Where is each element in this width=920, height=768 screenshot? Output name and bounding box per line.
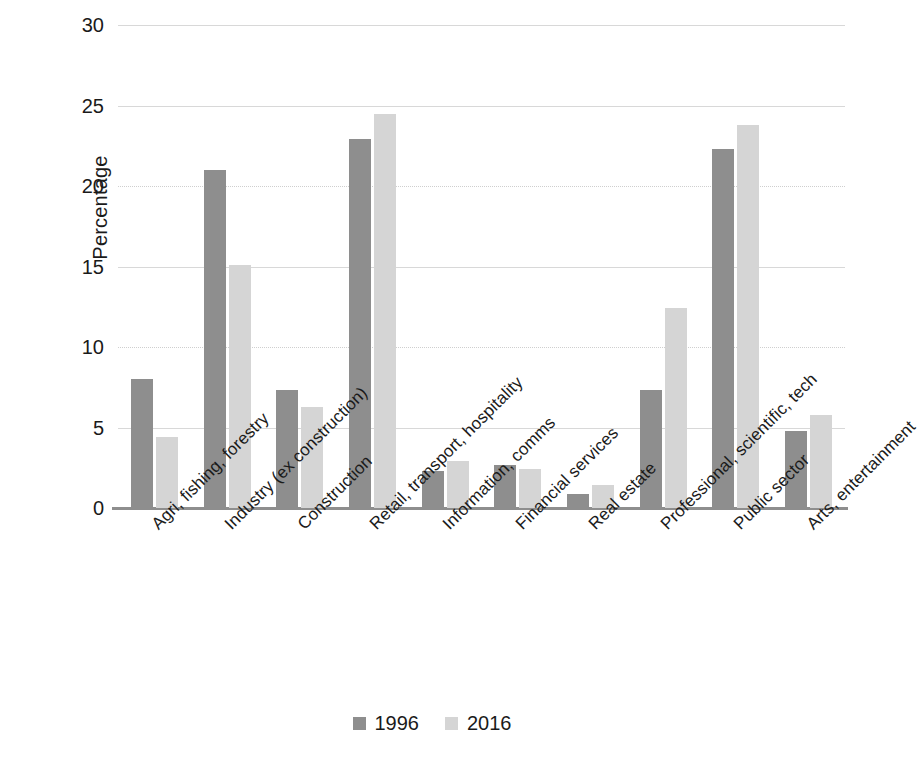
y-axis-tick-label: 30: [60, 14, 104, 37]
bar-2016[interactable]: [229, 265, 251, 508]
bar-1996[interactable]: [131, 379, 153, 508]
bar-group: [336, 25, 409, 508]
bar-2016[interactable]: [374, 114, 396, 508]
legend-swatch-2016-icon: [445, 717, 458, 730]
y-axis-tick-label: 20: [60, 175, 104, 198]
legend-item-2016[interactable]: 2016: [445, 712, 512, 735]
y-axis-tick-label: 15: [60, 255, 104, 278]
y-axis-tick-label: 0: [60, 497, 104, 520]
legend-label-2016: 2016: [467, 712, 512, 735]
bar-1996[interactable]: [640, 390, 662, 508]
bar-group: [627, 25, 700, 508]
bar-1996[interactable]: [567, 494, 589, 508]
bar-group: [772, 25, 845, 508]
plot-area: [118, 25, 845, 508]
bar-group: [118, 25, 191, 508]
bar-2016[interactable]: [665, 308, 687, 508]
y-axis-tick-label: 5: [60, 416, 104, 439]
legend-swatch-1996-icon: [353, 717, 366, 730]
chart-legend: 1996 2016: [0, 712, 864, 735]
y-axis-tick-label: 10: [60, 336, 104, 359]
legend-label-1996: 1996: [375, 712, 420, 735]
y-axis-tick-label: 25: [60, 94, 104, 117]
legend-item-1996[interactable]: 1996: [353, 712, 420, 735]
